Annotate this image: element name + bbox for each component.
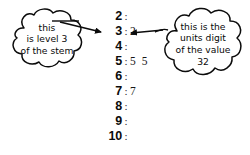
stem-and-leaf-plot: 2 : 3 : 2 4 : 5 : 5 5 6 : 7 : 7 xyxy=(96,9,166,144)
stem-value: 8 xyxy=(96,99,122,114)
cloud-shape-icon xyxy=(160,4,246,84)
plot-row: 6 : xyxy=(96,69,166,84)
stem-value: 3 xyxy=(96,24,122,39)
leaf-values: 2 xyxy=(130,24,137,39)
stem-leaf-separator: : xyxy=(122,114,130,129)
stem-leaf-separator: : xyxy=(122,84,130,99)
plot-row: 10 : xyxy=(96,129,166,144)
callout-cloud-left: this is level 3 of the stem xyxy=(8,6,86,72)
plot-row: 8 : xyxy=(96,99,166,114)
stem-value: 9 xyxy=(96,114,122,129)
stem-value: 5 xyxy=(96,54,122,69)
stem-leaf-separator: : xyxy=(122,9,130,24)
plot-row: 2 : xyxy=(96,9,166,24)
plot-row: 9 : xyxy=(96,114,166,129)
stem-leaf-separator: : xyxy=(122,39,130,54)
stem-value: 10 xyxy=(96,129,122,144)
stem-leaf-separator: : xyxy=(122,69,130,84)
stem-value: 6 xyxy=(96,69,122,84)
cloud-shape-icon xyxy=(8,6,86,72)
stem-leaf-separator: : xyxy=(122,54,130,69)
plot-row: 5 : 5 5 xyxy=(96,54,166,69)
plot-row: 4 : xyxy=(96,39,166,54)
callout-cloud-right: this is the units digit of the value 32 xyxy=(160,4,246,84)
stem-value: 7 xyxy=(96,84,122,99)
plot-row: 7 : 7 xyxy=(96,84,166,99)
stem-and-leaf-figure: 2 : 3 : 2 4 : 5 : 5 5 6 : 7 : 7 xyxy=(0,0,250,155)
stem-value: 4 xyxy=(96,39,122,54)
stem-leaf-separator: : xyxy=(122,24,130,39)
stem-leaf-separator: : xyxy=(122,129,130,144)
stem-leaf-separator: : xyxy=(122,99,130,114)
leaf-values: 5 5 xyxy=(130,54,149,69)
plot-row: 3 : 2 xyxy=(96,24,166,39)
stem-value: 2 xyxy=(96,9,122,24)
leaf-values: 7 xyxy=(130,84,137,99)
